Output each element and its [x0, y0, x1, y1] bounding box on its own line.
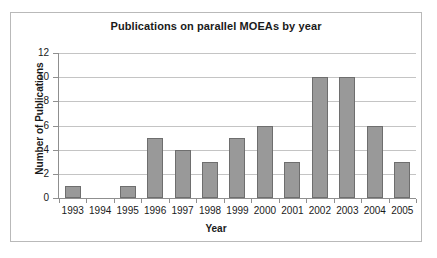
- bar-slot: [251, 53, 278, 198]
- bar-slot: [196, 53, 223, 198]
- x-axis-tick-label: 1999: [224, 205, 251, 217]
- x-axis-tick-mark: [224, 199, 225, 203]
- x-axis-tick-mark: [361, 199, 362, 203]
- bar-slot: [86, 53, 113, 198]
- plot-area: [59, 53, 416, 198]
- bar-slot: [334, 53, 361, 198]
- x-axis-tick-mark: [196, 199, 197, 203]
- x-axis-tick-mark: [141, 199, 142, 203]
- chart-frame: Publications on parallel MOEAs by year N…: [10, 12, 422, 242]
- x-axis-tick-labels: 1993199419951996199719981999200020012002…: [59, 205, 416, 219]
- chart-title: Publications on parallel MOEAs by year: [11, 20, 421, 32]
- x-axis-tick-label: 1996: [141, 205, 168, 217]
- x-axis-tick-mark: [86, 199, 87, 203]
- bar-slot: [361, 53, 388, 198]
- y-axis-tick-label: 12: [21, 48, 49, 58]
- bar[interactable]: [257, 126, 273, 199]
- x-axis-tick-label: 1993: [59, 205, 86, 217]
- bar-slot: [59, 53, 86, 198]
- bar-slot: [141, 53, 168, 198]
- bar-slot: [224, 53, 251, 198]
- x-axis-tick-label: 2000: [251, 205, 278, 217]
- x-axis-tick-label: 2004: [361, 205, 388, 217]
- x-axis-tick-mark: [389, 199, 390, 203]
- y-axis-tick-mark: [53, 77, 58, 78]
- bar[interactable]: [284, 162, 300, 198]
- x-axis-tick-mark: [251, 199, 252, 203]
- y-axis-tick-label: 8: [21, 96, 49, 106]
- bar-slot: [169, 53, 196, 198]
- bar[interactable]: [175, 150, 191, 198]
- x-axis-tick-label: 2002: [306, 205, 333, 217]
- x-axis-title: Year: [11, 223, 421, 234]
- bar[interactable]: [120, 186, 136, 198]
- bar[interactable]: [394, 162, 410, 198]
- x-axis-tick-label: 1995: [114, 205, 141, 217]
- bar[interactable]: [202, 162, 218, 198]
- x-axis-tick-mark: [306, 199, 307, 203]
- y-axis-tick-mark: [53, 126, 58, 127]
- bar[interactable]: [339, 77, 355, 198]
- y-axis-tick-mark: [53, 174, 58, 175]
- y-axis-tick-mark: [53, 150, 58, 151]
- bar[interactable]: [65, 186, 81, 198]
- x-axis-tick-mark: [334, 199, 335, 203]
- gridline: [59, 198, 416, 199]
- bar-slot: [306, 53, 333, 198]
- x-axis-tick-label: 2003: [334, 205, 361, 217]
- bar[interactable]: [367, 126, 383, 199]
- y-axis-tick-mark: [53, 101, 58, 102]
- x-axis-tick-label: 1994: [86, 205, 113, 217]
- x-axis-tick-mark: [416, 199, 417, 203]
- y-axis-tick-label: 4: [21, 145, 49, 155]
- bar-slot: [279, 53, 306, 198]
- y-axis-tick-label: 6: [21, 121, 49, 131]
- bar-slot: [114, 53, 141, 198]
- y-axis-tick-label: 2: [21, 169, 49, 179]
- y-axis-tick-labels: 024681012: [19, 53, 49, 198]
- x-axis-tick-mark: [59, 199, 60, 203]
- y-axis-tick-label: 10: [21, 72, 49, 82]
- y-axis-tick-mark: [53, 198, 58, 199]
- bar[interactable]: [147, 138, 163, 198]
- x-axis-tick-label: 1998: [196, 205, 223, 217]
- x-axis-tick-mark: [169, 199, 170, 203]
- x-axis-tick-label: 2005: [389, 205, 416, 217]
- x-axis-tick-mark: [279, 199, 280, 203]
- x-axis-tick-mark: [114, 199, 115, 203]
- y-axis-tick-mark: [53, 53, 58, 54]
- bar[interactable]: [229, 138, 245, 198]
- bar-slot: [389, 53, 416, 198]
- bar[interactable]: [312, 77, 328, 198]
- x-axis-tick-label: 1997: [169, 205, 196, 217]
- y-axis-tick-label: 0: [21, 193, 49, 203]
- x-axis-tick-label: 2001: [279, 205, 306, 217]
